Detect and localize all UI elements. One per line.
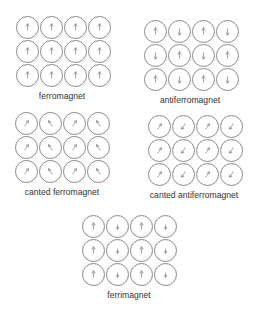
atom-site <box>172 115 195 138</box>
label-ferromagnet: ferromagnet <box>39 91 85 101</box>
atom-site <box>64 64 87 87</box>
atom-site <box>82 215 105 238</box>
atom-site <box>130 263 153 286</box>
atom-site <box>144 44 167 67</box>
atom-site <box>88 64 111 87</box>
atom-site <box>82 239 105 262</box>
atom-site <box>168 20 191 43</box>
atom-site <box>216 68 239 91</box>
atom-site <box>148 163 171 186</box>
atom-site <box>144 20 167 43</box>
atom-site <box>15 112 38 135</box>
spin-lattice-antiferromagnet <box>143 19 239 91</box>
spin-lattice-ferrimagnet <box>81 214 177 286</box>
spin-lattice-canted-antiferromagnet <box>147 114 243 186</box>
atom-site <box>16 40 39 63</box>
atom-site <box>172 139 195 162</box>
atom-site <box>220 163 243 186</box>
panel-ferrimagnet <box>81 214 177 286</box>
atom-site <box>64 40 87 63</box>
atom-site <box>220 139 243 162</box>
atom-site <box>144 68 167 91</box>
atom-site <box>106 239 129 262</box>
atom-site <box>88 16 111 39</box>
atom-site <box>39 112 62 135</box>
panel-ferromagnet <box>15 15 111 87</box>
atom-site <box>87 136 110 159</box>
atom-site <box>216 20 239 43</box>
atom-site <box>196 115 219 138</box>
atom-site <box>16 16 39 39</box>
atom-site <box>39 136 62 159</box>
atom-site <box>88 40 111 63</box>
spin-lattice-ferromagnet <box>15 15 111 87</box>
atom-site <box>154 239 177 262</box>
atom-site <box>106 215 129 238</box>
atom-site <box>130 239 153 262</box>
atom-site <box>220 115 243 138</box>
atom-site <box>63 112 86 135</box>
label-canted-ferromagnet: canted ferromagnet <box>25 187 100 197</box>
atom-site <box>16 64 39 87</box>
atom-site <box>40 64 63 87</box>
atom-site <box>192 44 215 67</box>
label-ferrimagnet: ferrimagnet <box>107 290 150 300</box>
atom-site <box>40 16 63 39</box>
atom-site <box>40 40 63 63</box>
spin-lattice-canted-ferromagnet <box>14 111 110 183</box>
atom-site <box>216 44 239 67</box>
label-antiferromagnet: antiferromagnet <box>160 95 220 105</box>
atom-site <box>148 139 171 162</box>
panel-canted-ferromagnet <box>14 111 110 183</box>
atom-site <box>130 215 153 238</box>
label-canted-antiferromagnet: canted antiferromagnet <box>150 190 238 200</box>
atom-site <box>168 68 191 91</box>
atom-site <box>15 136 38 159</box>
atom-site <box>87 160 110 183</box>
atom-site <box>63 136 86 159</box>
panel-antiferromagnet <box>143 19 239 91</box>
atom-site <box>15 160 38 183</box>
atom-site <box>192 20 215 43</box>
atom-site <box>148 115 171 138</box>
atom-site <box>154 263 177 286</box>
atom-site <box>63 160 86 183</box>
atom-site <box>168 44 191 67</box>
atom-site <box>192 68 215 91</box>
atom-site <box>106 263 129 286</box>
atom-site <box>196 139 219 162</box>
atom-site <box>87 112 110 135</box>
atom-site <box>39 160 62 183</box>
atom-site <box>154 215 177 238</box>
atom-site <box>196 163 219 186</box>
atom-site <box>64 16 87 39</box>
panel-canted-antiferromagnet <box>147 114 243 186</box>
atom-site <box>172 163 195 186</box>
atom-site <box>82 263 105 286</box>
